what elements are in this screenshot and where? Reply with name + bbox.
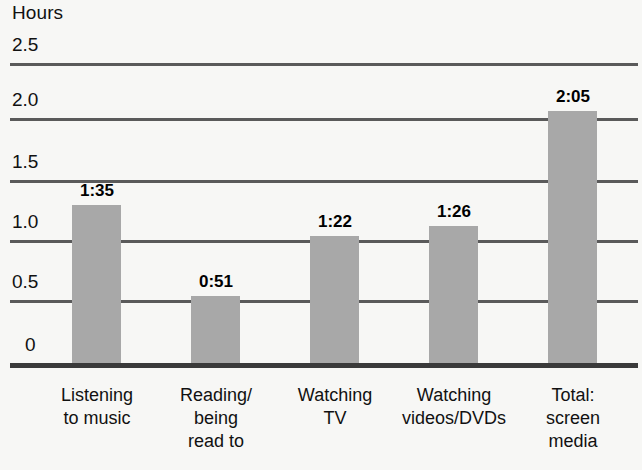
category-line: screen bbox=[512, 407, 634, 430]
bar-value-listening-to-music: 1:35 bbox=[57, 181, 137, 201]
bar-chart: Hours 2.5 2.0 1.5 1.0 0.5 0 1:35 0:51 1:… bbox=[0, 0, 642, 470]
category-label-total-screen-media: Total: screen media bbox=[512, 384, 634, 453]
y-tick-label-2-5: 2.5 bbox=[12, 34, 38, 56]
axis-baseline bbox=[10, 363, 638, 368]
y-tick-label-1-0: 1.0 bbox=[12, 211, 38, 233]
gridline-2-0 bbox=[10, 118, 638, 121]
bar-listening-to-music bbox=[72, 205, 121, 363]
gridline-2-5 bbox=[10, 63, 638, 66]
y-tick-label-2-0: 2.0 bbox=[12, 89, 38, 111]
bar-value-total-screen-media: 2:05 bbox=[533, 87, 613, 107]
bar-watching-tv bbox=[310, 236, 359, 363]
category-line: read to bbox=[155, 430, 277, 453]
category-line: videos/DVDs bbox=[391, 407, 517, 430]
bar-total-screen-media bbox=[548, 111, 597, 363]
category-line: Watching bbox=[391, 384, 517, 407]
bar-value-watching-videos-dvds: 1:26 bbox=[414, 202, 494, 222]
category-line: being bbox=[155, 407, 277, 430]
category-line: Total: bbox=[512, 384, 634, 407]
category-label-watching-videos-dvds: Watching videos/DVDs bbox=[391, 384, 517, 430]
category-line: to music bbox=[36, 407, 158, 430]
bar-value-watching-tv: 1:22 bbox=[295, 212, 375, 232]
category-line: Reading/ bbox=[155, 384, 277, 407]
category-line: TV bbox=[274, 407, 396, 430]
y-tick-label-0: 0 bbox=[25, 334, 36, 356]
y-tick-label-0-5: 0.5 bbox=[12, 271, 38, 293]
bar-reading-being-read-to bbox=[191, 296, 240, 363]
category-label-reading-being-read-to: Reading/ being read to bbox=[155, 384, 277, 453]
category-line: media bbox=[512, 430, 634, 453]
bar-value-reading-being-read-to: 0:51 bbox=[176, 272, 256, 292]
plot-area: 2.5 2.0 1.5 1.0 0.5 0 1:35 0:51 1:22 1:2… bbox=[0, 0, 642, 470]
y-tick-label-1-5: 1.5 bbox=[12, 151, 38, 173]
bar-watching-videos-dvds bbox=[429, 226, 478, 363]
category-line: Watching bbox=[274, 384, 396, 407]
category-label-listening-to-music: Listening to music bbox=[36, 384, 158, 430]
category-label-watching-tv: Watching TV bbox=[274, 384, 396, 430]
category-line: Listening bbox=[36, 384, 158, 407]
